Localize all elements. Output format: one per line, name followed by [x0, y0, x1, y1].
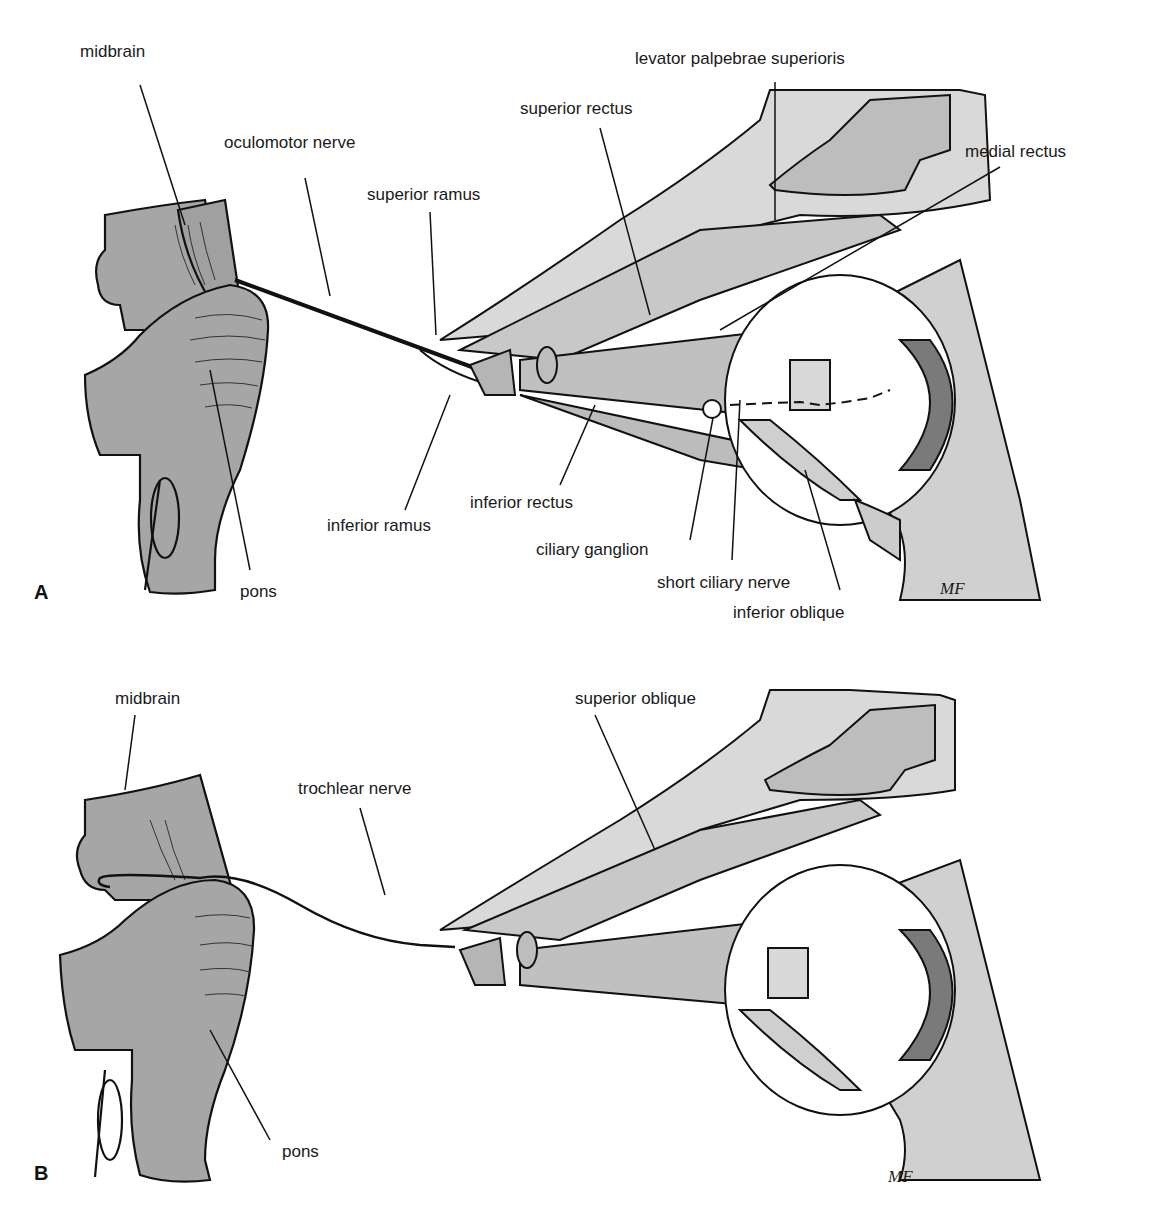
label-trochlear-nerve: trochlear nerve [298, 780, 411, 797]
brainstem-a [85, 200, 268, 594]
label-inferior-rectus: inferior rectus [470, 494, 573, 511]
orbit-a [440, 90, 1040, 600]
label-midbrain-a: midbrain [80, 43, 145, 60]
label-oculomotor-nerve: oculomotor nerve [224, 134, 355, 151]
label-short-ciliary-nerve: short ciliary nerve [657, 574, 790, 591]
cranial-nerve-figure: midbrain oculomotor nerve superior ramus… [0, 0, 1160, 1227]
artist-signature-b: MF [888, 1168, 913, 1185]
brainstem-b [60, 775, 254, 1182]
label-inferior-ramus: inferior ramus [327, 517, 431, 534]
panel-letter-b: B [34, 1163, 48, 1183]
label-pons-a: pons [240, 583, 277, 600]
label-superior-ramus: superior ramus [367, 186, 480, 203]
panel-letter-a: A [34, 582, 48, 602]
label-ciliary-ganglion: ciliary ganglion [536, 541, 648, 558]
label-midbrain-b: midbrain [115, 690, 180, 707]
label-superior-oblique: superior oblique [575, 690, 696, 707]
oculomotor-nerve-line [235, 280, 480, 370]
label-inferior-oblique: inferior oblique [733, 604, 845, 621]
label-superior-rectus: superior rectus [520, 100, 632, 117]
label-medial-rectus: medial rectus [965, 143, 1066, 160]
ciliary-ganglion-shape [703, 400, 721, 418]
label-levator-palpebrae-superioris: levator palpebrae superioris [635, 50, 845, 67]
label-pons-b: pons [282, 1143, 319, 1160]
panel-a-illustration [0, 0, 1160, 1227]
orbit-b [440, 690, 1040, 1180]
artist-signature-a: MF [940, 580, 965, 597]
